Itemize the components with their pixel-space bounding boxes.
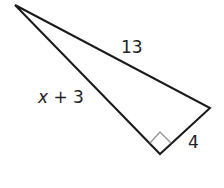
long-leg-label: x + 3 xyxy=(37,87,84,107)
right-angle-marker xyxy=(150,132,171,143)
triangle-shape xyxy=(15,5,210,154)
hypotenuse-label: 13 xyxy=(121,37,143,57)
short-leg-label: 4 xyxy=(188,132,199,152)
long-leg-constant: + 3 xyxy=(48,87,84,107)
triangle-diagram: 13 x + 3 4 xyxy=(0,0,224,188)
